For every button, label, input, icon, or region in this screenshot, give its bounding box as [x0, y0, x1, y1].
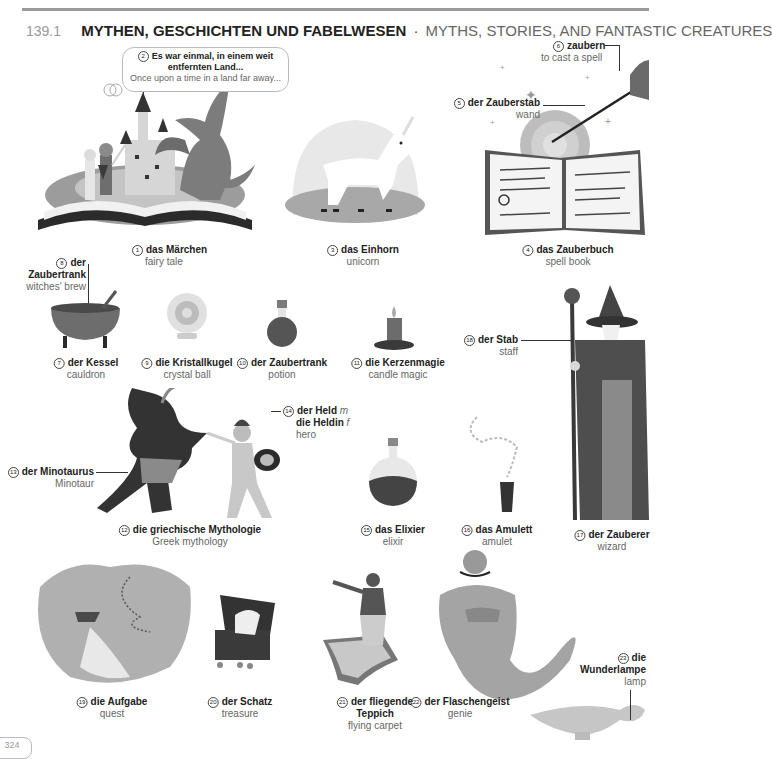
label-quest: 19die Aufgabe quest — [77, 696, 148, 720]
label-cauldron: 7der Kessel cauldron — [54, 357, 119, 381]
label-unicorn: 3das Einhorn unicorn — [327, 244, 399, 268]
label-potion: 10der Zaubertrank potion — [237, 357, 327, 381]
treasure-chest-illustration — [205, 595, 280, 670]
label-candle-magic: 11die Kerzenmagie candle magic — [351, 357, 444, 381]
leader-line-lamp — [630, 690, 631, 720]
leader-line-minotaur — [96, 472, 128, 473]
spell-book-illustration: ✦++++ — [480, 50, 649, 240]
speech-bubble: 2Es war einmal, in einem weit entfernten… — [122, 47, 289, 92]
wizard-illustration — [550, 280, 649, 520]
leader-line-cast-spell — [604, 45, 619, 46]
quest-map-illustration — [30, 557, 195, 687]
title-german: MYTHEN, GESCHICHTEN UND FABELWESEN — [81, 22, 406, 39]
svg-text:+: + — [585, 73, 590, 82]
potion-illustration — [262, 298, 302, 350]
page-header: 139.1 MYTHEN, GESCHICHTEN UND FABELWESEN… — [26, 22, 772, 39]
leader-line-cast-spell-v — [619, 45, 620, 71]
label-greek-mythology: 12die griechische Mythologie Greek mytho… — [119, 524, 261, 548]
label-staff: 18der Stab staff — [458, 334, 518, 358]
label-hero: 14der Held m die Heldin f hero — [283, 405, 349, 441]
label-genie: 22der Flaschengeist genie — [410, 696, 509, 720]
label-minotaur: 13der Minotaurus Minotaur — [0, 466, 94, 490]
label-amulet: 16das Amulett amulet — [462, 524, 533, 548]
greek-mythology-illustration — [92, 388, 292, 523]
label-treasure: 20der Schatz treasure — [208, 696, 273, 720]
label-elixir: 15das Elixier elixir — [361, 524, 425, 548]
svg-text:+: + — [605, 116, 611, 127]
section-number: 139.1 — [26, 23, 61, 39]
label-fairy-tale: 1das Märchen fairy tale — [132, 244, 207, 268]
label-lamp: 23die Wunderlampe lamp — [560, 652, 646, 688]
leader-line-staff — [521, 340, 571, 341]
label-spell-book: 4das Zauberbuch spell book — [522, 244, 613, 268]
svg-text:+: + — [500, 63, 505, 72]
candle-magic-illustration — [372, 300, 422, 352]
page-number-tab: 324 — [0, 737, 32, 759]
top-rule — [22, 8, 649, 11]
title-english: MYTHS, STORIES, AND FANTASTIC CREATURES — [426, 22, 772, 39]
label-flying-carpet: 21der fliegende Teppich flying carpet — [337, 696, 413, 732]
cauldron-illustration — [48, 288, 123, 350]
crystal-ball-illustration — [165, 288, 210, 350]
label-cast-spell: 6zaubern to cast a spell — [541, 40, 605, 64]
leader-line-wand — [543, 105, 585, 106]
flying-carpet-illustration — [318, 570, 418, 685]
label-wand: 5der Zauberstab wand — [400, 97, 540, 121]
label-crystal-ball: 9die Kristallkugel crystal ball — [141, 357, 232, 381]
unicorn-illustration — [283, 105, 428, 225]
elixir-illustration — [358, 436, 428, 508]
leader-line-hero — [271, 411, 281, 412]
title-separator: · — [413, 22, 418, 39]
amulet-illustration — [462, 412, 532, 512]
